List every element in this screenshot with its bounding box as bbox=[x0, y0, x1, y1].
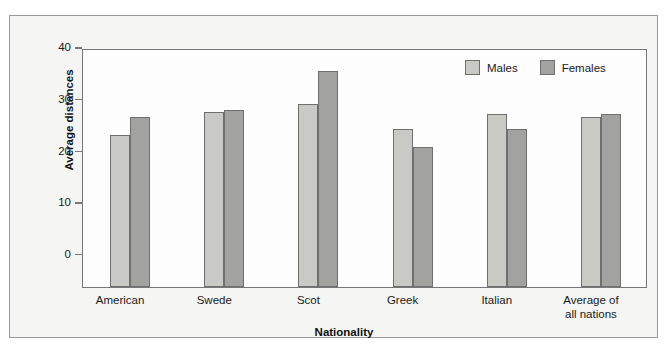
bar-males-italian bbox=[487, 114, 507, 287]
bar-males-american bbox=[110, 135, 130, 287]
legend-entry-males: Males bbox=[465, 60, 518, 75]
y-tick-label-10: 10 bbox=[58, 195, 71, 210]
bar-females-american bbox=[130, 117, 150, 287]
legend-swatch-males bbox=[465, 60, 480, 75]
y-tick-label-40: 40 bbox=[58, 40, 71, 55]
bar-females-scot bbox=[318, 71, 338, 287]
x-axis-title: Nationality bbox=[10, 326, 668, 338]
y-tick-mark-20 bbox=[75, 151, 82, 152]
bar-females-italian bbox=[507, 129, 527, 287]
bar-males-swede bbox=[204, 112, 224, 287]
legend-label-males: Males bbox=[487, 62, 518, 74]
bar-males-scot bbox=[298, 104, 318, 287]
x-category-label-5: Average of all nations bbox=[531, 293, 651, 321]
legend-label-females: Females bbox=[562, 62, 606, 74]
legend-swatch-females bbox=[540, 60, 555, 75]
bar-females-greek bbox=[413, 147, 433, 287]
y-tick-mark-10 bbox=[75, 202, 82, 203]
plot-area bbox=[82, 49, 647, 288]
y-tick-label-20: 20 bbox=[58, 144, 71, 159]
bar-males-average-of-all-nations bbox=[581, 117, 601, 287]
y-axis-title: Average distances bbox=[63, 40, 75, 200]
legend: Males Females bbox=[465, 60, 606, 75]
y-tick-mark-0 bbox=[75, 254, 82, 255]
legend-entry-females: Females bbox=[540, 60, 606, 75]
y-tick-label-30: 30 bbox=[58, 92, 71, 107]
bar-chart-figure: Average distances 0 10 20 30 40 bbox=[0, 0, 668, 352]
y-tick-mark-40 bbox=[75, 47, 82, 48]
y-tick-mark-30 bbox=[75, 99, 82, 100]
figure-outer-frame: Average distances 0 10 20 30 40 bbox=[9, 15, 658, 338]
bar-females-swede bbox=[224, 110, 244, 287]
bar-females-average-of-all-nations bbox=[601, 114, 621, 287]
y-tick-label-0: 0 bbox=[65, 247, 71, 262]
bar-males-greek bbox=[393, 129, 413, 287]
